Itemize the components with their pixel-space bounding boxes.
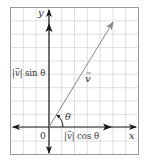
vector-label-arrow: → <box>86 69 91 76</box>
y-axis-label: y <box>37 7 44 18</box>
vertical-component-label: |v| → sin θ <box>12 65 45 80</box>
horizontal-component-label: |v| → cos θ <box>64 128 99 143</box>
origin-label: 0 <box>40 131 46 141</box>
horizontal-component-function: cos θ <box>77 131 99 141</box>
vertical-component-arrow: → <box>15 65 20 71</box>
x-axis-label: x <box>129 130 135 141</box>
vertical-component-function: sin θ <box>25 68 45 78</box>
angle-label: θ <box>65 111 71 122</box>
horizontal-component-arrow: → <box>67 128 72 134</box>
vector-diagram: y x 0 v → θ |v| → sin θ |v| → cos θ <box>0 0 150 163</box>
